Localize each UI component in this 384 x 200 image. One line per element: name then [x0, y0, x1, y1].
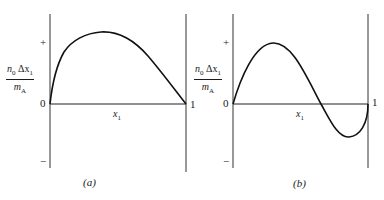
zero-tick-label: 0 — [223, 98, 229, 109]
panel-caption-a: (a) — [83, 176, 96, 188]
y-axis-label: n0 Δx1 mA — [6, 64, 34, 95]
chart-b-plot — [192, 0, 384, 200]
chart-panel-b: + 0 − 1 n0 Δx1 mA x1 (b) — [192, 0, 384, 200]
y-label-numerator: n0 Δx1 — [194, 64, 222, 80]
curve-b — [233, 43, 368, 137]
minus-tick-label: − — [223, 156, 229, 167]
chart-a-plot — [0, 0, 192, 200]
chart-panel-a: + 0 − 1 n0 Δx1 mA x1 (a) — [0, 0, 192, 200]
y-label-denominator: mA — [6, 80, 34, 95]
x-axis-label: x1 — [113, 108, 121, 122]
curve-a — [50, 32, 186, 104]
panel-caption-b: (b) — [293, 177, 306, 189]
one-tick-label: 1 — [372, 97, 378, 108]
plus-tick-label: + — [40, 37, 46, 48]
plus-tick-label: + — [223, 37, 229, 48]
y-label-denominator: mA — [194, 80, 222, 95]
zero-tick-label: 0 — [40, 98, 46, 109]
minus-tick-label: − — [40, 156, 46, 167]
x-axis-label: x1 — [296, 108, 304, 122]
y-label-numerator: n0 Δx1 — [6, 64, 34, 80]
y-axis-label: n0 Δx1 mA — [194, 64, 222, 95]
